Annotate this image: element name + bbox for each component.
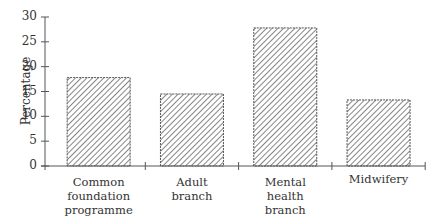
y-tick-label: 5 [15, 134, 37, 146]
bar-3 [254, 28, 317, 166]
x-category-label: Mentalhealthbranch [237, 175, 333, 217]
bar-2 [160, 94, 223, 166]
x-category-label: Midwifery [331, 172, 427, 186]
bars-group [67, 28, 410, 166]
y-tick-label: 0 [15, 159, 37, 171]
bar-1 [67, 78, 130, 166]
x-category-label: Adultbranch [144, 175, 240, 203]
y-axis-label: Percentage [19, 51, 33, 131]
y-tick-label: 25 [15, 35, 37, 47]
bar-4 [347, 100, 410, 166]
x-category-label: Commonfoundationprogramme [51, 175, 147, 217]
y-tick-label: 30 [15, 10, 37, 22]
